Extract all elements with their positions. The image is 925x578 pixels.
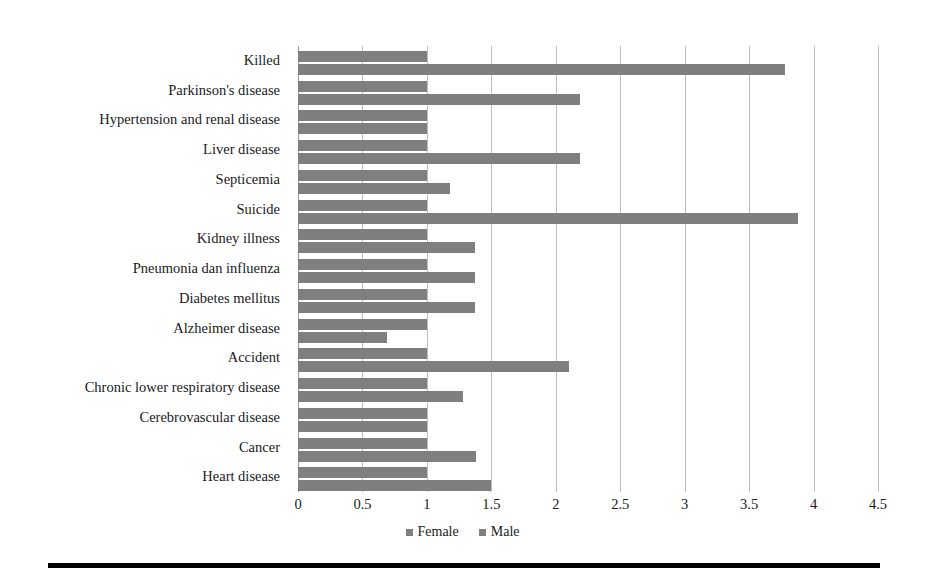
category-label: Accident [0,343,288,373]
bar-group [298,403,878,433]
bar-group [298,105,878,135]
bar-male [298,480,491,491]
bar-group [298,433,878,463]
category-axis-labels: KilledParkinson's diseaseHypertension an… [0,46,288,492]
category-label: Septicemia [0,165,288,195]
bar-female [298,408,427,419]
category-label: Cerebrovascular disease [0,403,288,433]
category-label: Heart disease [0,462,288,492]
bottom-divider-rule [48,563,880,568]
bar-group [298,165,878,195]
category-label: Alzheimer disease [0,314,288,344]
bar-group [298,462,878,492]
x-tick-label: 4 [810,496,817,513]
bar-female [298,378,427,389]
bar-male [298,183,450,194]
bar-female [298,170,427,181]
category-label: Diabetes mellitus [0,284,288,314]
bar-female [298,110,427,121]
chart-figure: KilledParkinson's diseaseHypertension an… [0,0,925,578]
bar-female [298,438,427,449]
bar-female [298,140,427,151]
bar-female [298,200,427,211]
category-label: Cancer [0,433,288,463]
bar-male [298,421,427,432]
x-tick-label: 2.5 [611,496,629,513]
bar-female [298,229,427,240]
bar-female [298,467,427,478]
category-label: Killed [0,46,288,76]
bar-female [298,319,427,330]
bar-female [298,348,427,359]
bar-group [298,135,878,165]
x-tick-label: 1.5 [482,496,500,513]
legend-swatch-icon [406,529,413,536]
bar-male [298,213,798,224]
bar-male [298,94,580,105]
category-label: Hypertension and renal disease [0,105,288,135]
bar-male [298,153,580,164]
bar-male [298,391,463,402]
category-label: Kidney illness [0,224,288,254]
x-tick-label: 2 [552,496,559,513]
bar-male [298,451,476,462]
legend-label: Female [418,524,459,540]
bar-group [298,195,878,225]
bar-group [298,284,878,314]
bar-group [298,373,878,403]
legend-swatch-icon [479,529,486,536]
x-axis-tick-labels: 00.511.522.533.544.5 [298,496,878,518]
bar-female [298,51,427,62]
bar-male [298,123,427,134]
gridline-4.5 [878,46,879,492]
bar-female [298,289,427,300]
x-tick-label: 0 [294,496,301,513]
bar-female [298,259,427,270]
x-tick-label: 3.5 [740,496,758,513]
bar-male [298,242,475,253]
bar-group [298,343,878,373]
category-label: Liver disease [0,135,288,165]
category-label: Chronic lower respiratory disease [0,373,288,403]
bar-male [298,272,475,283]
x-tick-label: 1 [423,496,430,513]
bar-male [298,361,569,372]
category-label: Parkinson's disease [0,76,288,106]
legend-label: Male [491,524,520,540]
bar-group [298,314,878,344]
bar-female [298,81,427,92]
plot-area [298,46,878,492]
legend-item-male[interactable]: Male [479,524,520,540]
bar-group [298,76,878,106]
x-tick-label: 0.5 [353,496,371,513]
bar-male [298,302,475,313]
bar-group [298,224,878,254]
chart-legend: FemaleMale [0,524,925,540]
bar-male [298,332,387,343]
category-label: Suicide [0,195,288,225]
bar-group [298,254,878,284]
category-label: Pneumonia dan influenza [0,254,288,284]
bar-male [298,64,785,75]
x-tick-label: 3 [681,496,688,513]
x-tick-label: 4.5 [869,496,887,513]
legend-item-female[interactable]: Female [406,524,459,540]
bar-group [298,46,878,76]
